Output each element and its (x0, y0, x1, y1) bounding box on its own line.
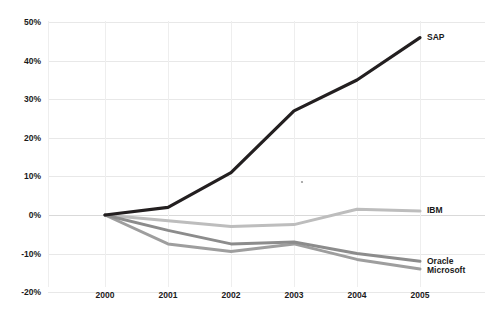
y-tick-label-5: 0% (29, 210, 42, 220)
line-chart: 50%40%30%20%10%0%-10%-20% 20002001200220… (0, 0, 496, 320)
y-tick-label-3: 20% (24, 133, 41, 143)
series-line-sap (105, 38, 420, 215)
chart-canvas: 50%40%30%20%10%0%-10%-20% 20002001200220… (0, 0, 496, 320)
x-tick-label-2004: 2004 (348, 290, 367, 300)
x-axis-tick-labels: 200020012002200320042005 (96, 290, 430, 300)
y-axis-tick-labels: 50%40%30%20%10%0%-10%-20% (21, 17, 41, 297)
series-label-ibm: IBM (427, 205, 443, 215)
y-tick-label-0: 50% (24, 17, 41, 27)
x-tick-label-2002: 2002 (222, 290, 241, 300)
y-tick-label-1: 40% (24, 56, 41, 66)
horizontal-gridlines (48, 23, 485, 293)
series-label-microsoft: Microsoft (427, 265, 465, 275)
y-tick-label-4: 10% (24, 171, 41, 181)
y-tick-label-7: -20% (21, 287, 41, 297)
stray-mark (301, 181, 303, 183)
y-tick-label-2: 30% (24, 94, 41, 104)
series-label-sap: SAP (427, 32, 445, 42)
x-tick-label-2001: 2001 (159, 290, 178, 300)
y-tick-label-6: -10% (21, 249, 41, 259)
x-tick-label-2003: 2003 (285, 290, 304, 300)
series-line-ibm (105, 209, 420, 226)
series-lines (105, 38, 420, 269)
series-end-labels: SAPIBMOracleMicrosoft (427, 32, 465, 275)
series-label-oracle: Oracle (427, 256, 454, 266)
x-tick-label-2000: 2000 (96, 290, 115, 300)
x-tick-label-2005: 2005 (411, 290, 430, 300)
